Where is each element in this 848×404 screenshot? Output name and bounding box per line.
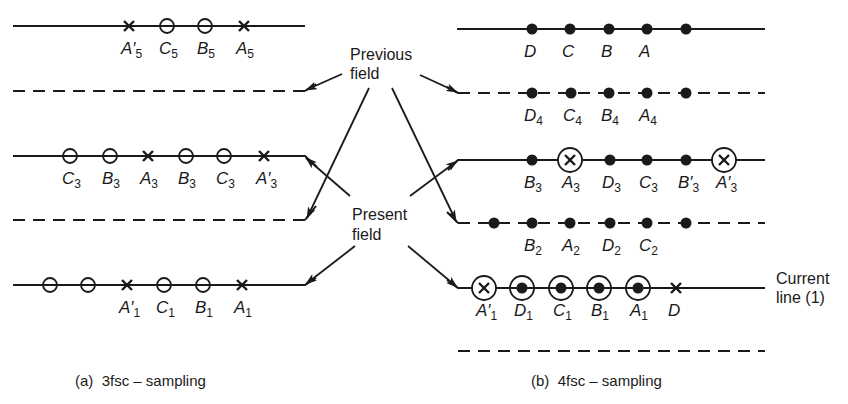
sampling-diagram: Previous field Present field A′5C5B5A5C3… (0, 0, 848, 404)
current-line-label: Current (776, 270, 830, 287)
sample-label: D4 (524, 106, 543, 128)
sample-label: A5 (235, 39, 254, 61)
sample-label: A′3 (255, 169, 278, 191)
sample-label: A3 (139, 169, 158, 191)
previous-field-label-2: field (350, 65, 379, 82)
sample-label: A′1 (118, 298, 141, 320)
filled-dot-icon (681, 155, 692, 166)
filled-dot-icon (642, 155, 653, 166)
sample-label: C5 (159, 39, 178, 61)
sample-label: A2 (561, 236, 580, 258)
filled-dot-icon (527, 24, 538, 35)
sample-label: D (668, 301, 680, 320)
sample-label: D1 (514, 301, 533, 323)
filled-dot-icon (642, 24, 653, 35)
sample-label: A1 (629, 301, 648, 323)
sample-label: B5 (197, 39, 215, 61)
arrow-previous-to-right-dashed-4 (420, 75, 457, 92)
circled-cross-icon (558, 148, 582, 172)
field-arrows (306, 74, 457, 287)
sample-label: C3 (62, 169, 81, 191)
filled-dot-icon (681, 24, 692, 35)
caption-3fsc: (a) 3fsc – sampling (75, 372, 206, 389)
circled-cross-icon (472, 276, 496, 300)
present-field-label-2: field (352, 226, 381, 243)
sample-label: C2 (639, 236, 658, 258)
sample-label: A3 (561, 173, 580, 195)
left-line-3 (13, 156, 317, 167)
filled-dot-icon (604, 88, 615, 99)
circled-dot-icon (510, 276, 534, 300)
sample-label: C1 (156, 298, 175, 320)
sample-label: B3 (178, 169, 196, 191)
filled-dot-icon (566, 88, 577, 99)
sample-label: C1 (553, 301, 572, 323)
sample-label: A′3 (715, 173, 738, 195)
circled-dot-icon (626, 276, 650, 300)
sample-label: A′1 (475, 301, 498, 323)
sample-label: A1 (233, 298, 252, 320)
sample-marks: A′5C5B5A5C3B3A3B3C3A′3A′1C1B1A1DCBAD4C4B… (43, 19, 738, 323)
sample-label: C3 (216, 169, 235, 191)
sample-label: D2 (602, 236, 621, 258)
sample-label: B′3 (678, 173, 700, 195)
sample-label: B4 (601, 106, 619, 128)
sample-label: B1 (591, 301, 609, 323)
sample-label: C4 (563, 106, 582, 128)
filled-dot-icon (527, 218, 538, 229)
sample-label: D3 (602, 173, 621, 195)
arrow-present-to-left-line-1 (306, 246, 355, 284)
sample-label: B2 (524, 236, 542, 258)
filled-dot-icon (565, 218, 576, 229)
filled-dot-icon (642, 88, 653, 99)
previous-field-label: Previous (350, 46, 412, 63)
sample-label: B3 (102, 169, 120, 191)
filled-dot-icon (605, 218, 616, 229)
sample-label: B (601, 42, 612, 61)
filled-dot-icon (604, 24, 615, 35)
left-line-1 (13, 278, 316, 285)
arrow-present-to-right-line-1 (408, 246, 457, 287)
sample-label: A′5 (120, 39, 143, 61)
sample-label: B1 (195, 298, 213, 320)
circled-cross-icon (712, 148, 736, 172)
sample-label: A4 (638, 106, 657, 128)
filled-dot-icon (489, 218, 500, 229)
sample-label: A (638, 42, 650, 61)
arrow-previous-to-left-dashed-2 (307, 88, 369, 218)
arrow-previous-to-left-dashed-4 (306, 74, 342, 90)
circled-dot-icon (587, 276, 611, 300)
left-panel (13, 26, 317, 285)
sample-label: C (562, 42, 575, 61)
filled-dot-icon (681, 88, 692, 99)
circled-dot-icon (549, 276, 573, 300)
filled-dot-icon (605, 155, 616, 166)
filled-dot-icon (565, 24, 576, 35)
sample-label: B3 (524, 173, 542, 195)
arrow-present-to-right-line-3 (410, 161, 457, 196)
current-line-label-2: line (1) (776, 289, 825, 306)
caption-4fsc: (b) 4fsc – sampling (531, 372, 662, 389)
sample-label: D (524, 42, 536, 61)
arrow-previous-to-right-dashed-2 (392, 88, 456, 221)
arrow-present-to-left-line-3 (306, 158, 350, 196)
filled-dot-icon (681, 218, 692, 229)
filled-dot-icon (527, 155, 538, 166)
sample-label: C3 (639, 173, 658, 195)
filled-dot-icon (527, 88, 538, 99)
filled-dot-icon (642, 218, 653, 229)
present-field-label: Present (352, 206, 408, 223)
